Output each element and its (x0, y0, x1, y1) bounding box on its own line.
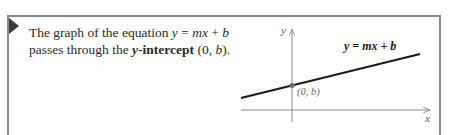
line-graph: y x y = mx + b (0, b) (0, 0, 453, 135)
line-equation-label: y = mx + b (342, 39, 396, 53)
intercept-point (290, 83, 295, 88)
y-axis-label: y (280, 24, 286, 36)
x-axis-label: x (424, 112, 430, 124)
intercept-label: (0, b) (297, 86, 320, 98)
graph-line (241, 54, 420, 98)
